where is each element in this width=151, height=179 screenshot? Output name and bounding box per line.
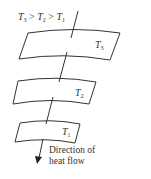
svg-text:T1: T1	[62, 126, 71, 138]
heat-flow-line-mid2	[46, 97, 53, 124]
isotherm-diagram: T3 > T2 > T1 T3 T2 T1 Direction of heat …	[0, 0, 151, 179]
svg-text:T2: T2	[75, 87, 84, 99]
heat-flow-line-mid1	[59, 52, 67, 82]
svg-text:T3: T3	[95, 39, 104, 51]
isotherm-plate-t1: T1	[15, 121, 80, 143]
isotherm-plate-t3: T3	[19, 30, 120, 83]
heat-flow-label-line2: heat flow	[49, 156, 85, 166]
temperature-condition-label: T3 > T2 > T1	[18, 11, 65, 23]
isotherm-plate-t2: T2	[13, 78, 96, 124]
heat-flow-arrow-icon	[35, 139, 43, 164]
heat-flow-line-top	[71, 11, 78, 38]
heat-flow-label-line1: Direction of	[49, 145, 96, 155]
